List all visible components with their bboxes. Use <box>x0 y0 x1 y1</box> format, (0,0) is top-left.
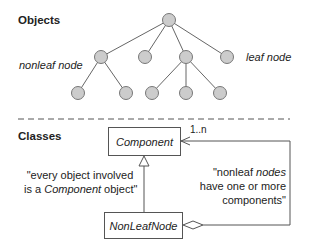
nonleaf-note-line1: "nonleaf nodes <box>198 165 286 179</box>
multiplicity-label: 1..n <box>190 124 207 135</box>
tree-node <box>221 51 234 64</box>
component-class-name: Component <box>116 136 173 148</box>
classes-title: Classes <box>18 130 61 142</box>
nonleaf-note-line3: components" <box>198 193 286 207</box>
nonleafnode-class-box: NonLeafNode <box>104 212 183 239</box>
generalization-arrowhead-icon <box>139 156 149 166</box>
objects-title: Objects <box>18 14 60 26</box>
tree-node <box>180 51 193 64</box>
tree-node <box>163 14 176 27</box>
tree-node <box>95 51 108 64</box>
tree-node <box>139 51 152 64</box>
component-note-line2: is a Component object" <box>24 182 136 196</box>
component-note-line1: "every object involved <box>24 168 136 182</box>
diagram-canvas <box>0 0 310 248</box>
tree-node <box>146 87 159 100</box>
tree-node <box>214 87 227 100</box>
tree-nodes <box>72 14 234 100</box>
tree-edge <box>152 57 186 93</box>
nonleafnode-class-name: NonLeafNode <box>110 220 178 232</box>
tree-edge <box>186 57 220 93</box>
nonleaf-note: "nonleaf nodes have one or more componen… <box>198 165 286 207</box>
nonleaf-node-label: nonleaf node <box>19 59 83 71</box>
nonleaf-note-line2: have one or more <box>198 179 286 193</box>
tree-node <box>120 87 133 100</box>
leaf-node-label: leaf node <box>246 51 291 63</box>
tree-node <box>72 87 85 100</box>
tree-edge <box>101 20 169 57</box>
tree-node <box>180 87 193 100</box>
aggregation-diamond-icon <box>183 221 203 229</box>
component-note: "every object involved is a Component ob… <box>24 168 136 196</box>
component-class-box: Component <box>108 127 181 156</box>
